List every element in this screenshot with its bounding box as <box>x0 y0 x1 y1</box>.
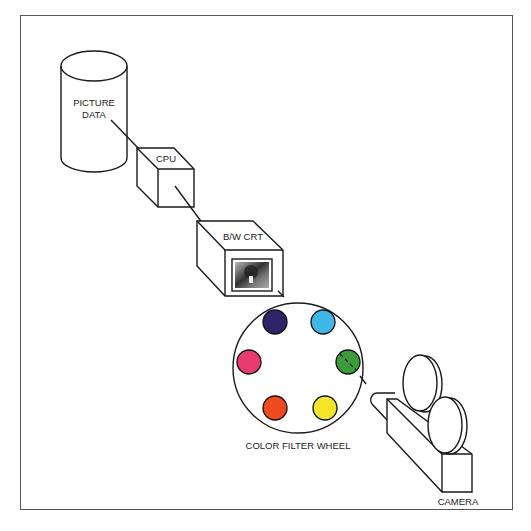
filter-green <box>336 350 360 374</box>
crt-cube: B/W CRT <box>197 221 283 296</box>
color-filter-wheel: COLOR FILTER WHEEL <box>233 303 363 451</box>
filter-magenta <box>237 350 261 374</box>
crt-label: B/W CRT <box>223 231 263 242</box>
filter-cyan <box>311 310 335 334</box>
picture-data-label-1: PICTURE <box>73 97 115 108</box>
diagram-canvas: PICTURE DATA CPU B/W CRT COLOR FILTER WH… <box>0 0 531 531</box>
picture-data-label-2: DATA <box>82 109 107 120</box>
cpu-label: CPU <box>156 153 176 164</box>
filter-wheel-label: COLOR FILTER WHEEL <box>246 440 351 451</box>
camera-label: CAMERA <box>438 496 479 507</box>
cpu-cube: CPU <box>137 148 194 207</box>
camera: CAMERA <box>371 355 479 507</box>
filter-orange <box>263 396 287 420</box>
picture-data-cylinder: PICTURE DATA <box>61 51 127 172</box>
filter-violet <box>263 310 287 334</box>
filter-yellow <box>313 396 337 420</box>
